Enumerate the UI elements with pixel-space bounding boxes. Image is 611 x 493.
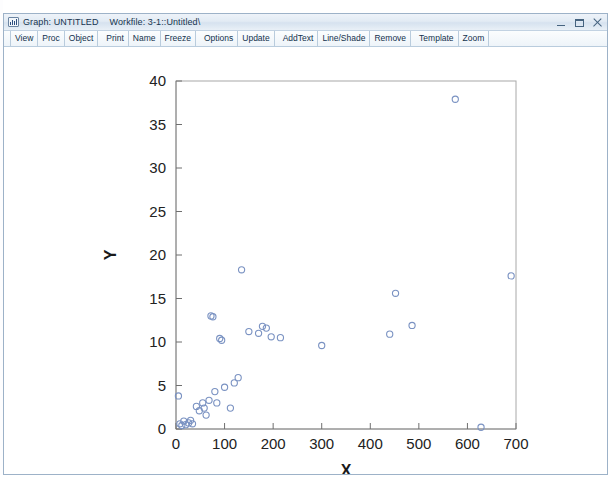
toolbar-button-update[interactable]: Update [238,31,274,46]
toolbar-button-addtext[interactable]: AddText [279,31,319,46]
minimize-button[interactable] [556,17,567,28]
y-tick-label: 40 [149,72,166,89]
data-point [214,400,220,406]
data-point [221,384,227,390]
close-button[interactable] [592,17,603,28]
window-titlebar[interactable]: Graph: UNTITLED Workfile: 3-1::Untitled\ [4,14,607,31]
data-point [246,328,252,334]
data-point [259,323,265,329]
data-point [387,331,393,337]
toolbar-button-remove[interactable]: Remove [370,31,411,46]
y-tick-label: 5 [158,377,166,394]
y-axis-title: Y [102,249,119,260]
axis-tick-labels: 01002003004005006007000510152025303540 [149,72,528,452]
y-tick-label: 35 [149,116,166,133]
toolbar-button-template[interactable]: Template [415,31,459,46]
y-tick-label: 0 [158,420,166,437]
data-point [452,96,458,102]
graph-toolbar: ViewProcObjectPrintNameFreezeOptionsUpda… [4,31,607,47]
data-point [206,397,212,403]
x-tick-label: 400 [358,435,383,452]
toolbar-button-freeze[interactable]: Freeze [161,31,196,46]
maximize-button[interactable] [574,17,585,28]
plot-frame [176,81,516,429]
data-point [255,330,261,336]
toolbar-button-proc[interactable]: Proc [38,31,64,46]
toolbar-button-name[interactable]: Name [129,31,161,46]
bottom-edge-strip [0,475,611,493]
x-tick-label: 100 [212,435,237,452]
y-tick-label: 15 [149,290,166,307]
data-points [175,96,514,430]
data-point [508,273,514,279]
x-tick-label: 200 [261,435,286,452]
x-tick-label: 600 [455,435,480,452]
toolbar-button-print[interactable]: Print [102,31,128,46]
data-point [319,342,325,348]
x-tick-label: 700 [503,435,528,452]
data-point [268,334,274,340]
data-point [277,335,283,341]
x-tick-label: 0 [172,435,180,452]
page-background: Graph: UNTITLED Workfile: 3-1::Untitled\… [0,0,611,493]
window-title-graph: Graph: UNTITLED [23,17,99,27]
toolbar-button-options[interactable]: Options [200,31,238,46]
window-controls [556,14,603,31]
scatter-plot: 01002003004005006007000510152025303540 X… [4,47,607,474]
graph-window: Graph: UNTITLED Workfile: 3-1::Untitled\… [3,13,608,475]
y-tick-label: 30 [149,159,166,176]
y-tick-label: 25 [149,203,166,220]
toolbar-button-object[interactable]: Object [65,31,99,46]
x-tick-label: 300 [309,435,334,452]
x-axis-title: X [341,462,352,474]
y-tick-label: 10 [149,333,166,350]
data-point [235,375,241,381]
data-point [212,388,218,394]
data-point [409,322,415,328]
data-point [263,325,269,331]
eviews-graph-icon [8,17,19,27]
axis-ticks [176,81,516,429]
data-point [227,405,233,411]
y-tick-label: 20 [149,246,166,263]
data-point [392,290,398,296]
toolbar-button-zoom[interactable]: Zoom [459,31,490,46]
toolbar-button-view[interactable]: View [10,31,38,46]
data-point [238,267,244,273]
window-title-workfile: Workfile: 3-1::Untitled\ [110,17,201,27]
x-tick-label: 500 [406,435,431,452]
toolbar-button-line-shade[interactable]: Line/Shade [318,31,370,46]
graph-client-area: 01002003004005006007000510152025303540 X… [4,47,607,474]
data-point [203,412,209,418]
